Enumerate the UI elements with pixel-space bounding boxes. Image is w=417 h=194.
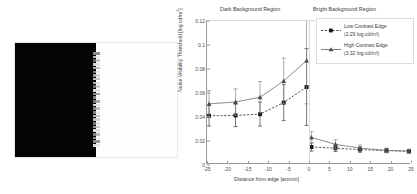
region-divider-line bbox=[309, 21, 310, 163]
x-tick-label: 20 bbox=[388, 166, 394, 172]
data-point bbox=[281, 58, 286, 104]
x-tick-label: 5 bbox=[328, 166, 331, 172]
x-tick-label: 0 bbox=[308, 166, 311, 172]
y-tick-mark bbox=[207, 141, 210, 142]
y-tick-mark bbox=[207, 117, 210, 118]
x-axis-label: Distance from edge [arcmin] bbox=[234, 176, 299, 182]
region-title-bright: Bright Background Region bbox=[313, 6, 376, 12]
data-point bbox=[309, 143, 313, 151]
y-tick-label: 0.12 bbox=[195, 18, 205, 24]
y-tick-label: 0.1 bbox=[198, 42, 205, 48]
x-tick-label: -15 bbox=[244, 166, 251, 172]
data-point bbox=[309, 132, 314, 144]
legend-label-high-contrast: High Contrast Edge (3.32 log cd/m²) bbox=[344, 41, 388, 57]
series-line bbox=[209, 61, 307, 104]
series-line bbox=[209, 87, 307, 116]
x-tick-mark bbox=[268, 161, 269, 164]
chart-legend: Low Contrast Edge (2.29 log cd/m²) High … bbox=[316, 18, 414, 64]
legend-label-low-contrast: Low Contrast Edge (2.29 log cd/m²) bbox=[344, 22, 387, 38]
marker-triangle bbox=[309, 135, 314, 139]
x-tick-mark bbox=[411, 161, 412, 164]
legend-marker-low-contrast-icon bbox=[321, 27, 341, 34]
x-tick-mark bbox=[227, 161, 228, 164]
x-tick-mark bbox=[350, 161, 351, 164]
legend-marker-high-contrast-icon bbox=[321, 46, 341, 53]
x-tick-label: 10 bbox=[347, 166, 353, 172]
x-tick-label: 25 bbox=[408, 166, 414, 172]
x-tick-mark bbox=[370, 161, 371, 164]
x-tick-mark bbox=[391, 161, 392, 164]
x-tick-label: 15 bbox=[367, 166, 373, 172]
x-tick-label: -20 bbox=[224, 166, 231, 172]
y-tick-label: 0.06 bbox=[195, 90, 205, 96]
edge-stimulus-panel bbox=[14, 42, 178, 158]
x-tick-mark bbox=[248, 161, 249, 164]
stimulus-bright-half bbox=[96, 43, 177, 157]
y-tick-mark bbox=[207, 69, 210, 70]
x-tick-mark bbox=[289, 161, 290, 164]
x-tick-label: -25 bbox=[203, 166, 210, 172]
y-axis-label: Noise Visibility Threshold [log cd/m2] bbox=[176, 8, 183, 92]
x-tick-label: -5 bbox=[286, 166, 290, 172]
y-tick-mark bbox=[207, 93, 210, 94]
x-tick-mark bbox=[207, 161, 208, 164]
marker-triangle bbox=[258, 95, 263, 99]
noise-visibility-threshold-chart: Dark Background Region Bright Background… bbox=[182, 0, 417, 194]
y-tick-mark bbox=[207, 45, 210, 46]
y-tick-label: 0.08 bbox=[195, 66, 205, 72]
legend-item-low-contrast: Low Contrast Edge (2.29 log cd/m²) bbox=[321, 22, 410, 41]
stimulus-dark-half bbox=[15, 43, 96, 157]
y-tick-label: 0.02 bbox=[195, 138, 205, 144]
y-tick-label: 0.04 bbox=[195, 114, 205, 120]
marker-square bbox=[309, 145, 313, 149]
y-tick-mark bbox=[207, 21, 210, 22]
legend-item-high-contrast: High Contrast Edge (3.32 log cd/m²) bbox=[321, 41, 410, 60]
region-title-dark: Dark Background Region bbox=[220, 6, 280, 12]
x-tick-mark bbox=[329, 161, 330, 164]
x-tick-label: -10 bbox=[265, 166, 272, 172]
x-tick-mark bbox=[309, 161, 310, 164]
